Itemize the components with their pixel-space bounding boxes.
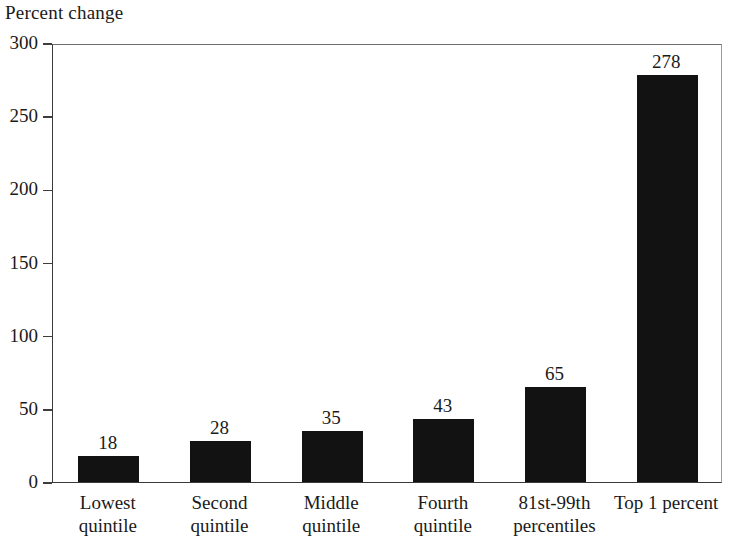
bar [78,456,139,482]
bar [413,419,474,482]
bar [525,387,586,482]
bar [637,75,698,482]
y-axis-tick-mark [43,409,52,411]
y-axis-tick-label: 200 [10,178,39,200]
y-axis-tick-mark [43,190,52,192]
y-axis-tick-mark [43,263,52,265]
chart-title: Percent change [5,2,123,24]
y-axis-tick-label: 150 [10,252,39,274]
plot-area [52,44,722,483]
bar [190,441,251,482]
y-axis-tick-mark [43,43,52,45]
bar-value-label: 43 [403,395,483,416]
bar-value-label: 18 [68,432,148,453]
x-axis-category-label: Top 1 percent [596,491,736,514]
y-axis-tick-label: 300 [10,32,39,54]
y-axis-tick-label: 50 [19,398,38,420]
y-axis-tick-mark [43,116,52,118]
x-axis-label-line: Top 1 percent [596,491,736,514]
bar-chart: Percent change 050100150200250300 182835… [0,0,739,543]
y-axis-tick-label: 0 [29,471,39,493]
bar-value-label: 35 [291,407,371,428]
bar [302,431,363,482]
y-axis-tick-mark [43,336,52,338]
y-axis-tick-label: 250 [10,105,39,127]
bar-value-label: 65 [515,363,595,384]
y-axis-tick-mark [43,482,52,484]
y-axis-tick-label: 100 [10,325,39,347]
x-axis-label-line: percentiles [485,514,625,537]
bar-value-label: 28 [180,417,260,438]
bar-value-label: 278 [626,51,706,72]
